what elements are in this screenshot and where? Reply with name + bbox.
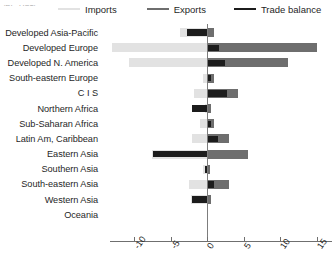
chart-figure: (Bln US$) Imports Exports Trade balance …	[0, 0, 332, 277]
bar-row: C I S	[0, 86, 332, 101]
bar-trade-balance	[207, 181, 214, 188]
chart-legend: Imports Exports Trade balance	[0, 2, 332, 16]
legend-label-exports: Exports	[174, 4, 206, 15]
bar-row: Oceania	[0, 207, 332, 222]
legend-item-trade-balance: Trade balance	[234, 4, 321, 15]
legend-item-imports: Imports	[58, 4, 117, 15]
bar-trade-balance	[207, 45, 219, 52]
bar-group	[0, 222, 332, 237]
bar-exports	[207, 28, 214, 37]
bar-row: South-eastern Asia	[0, 177, 332, 192]
legend-label-imports: Imports	[85, 4, 117, 15]
x-tick-label: 5	[242, 241, 253, 251]
bar-trade-balance	[153, 151, 207, 158]
bar-trade-balance	[192, 105, 207, 112]
plot-area: Developed Asia-PacificDeveloped EuropeDe…	[0, 24, 332, 246]
bar-row	[0, 222, 332, 237]
bar-row: Sub-Saharan Africa	[0, 116, 332, 131]
bar-imports	[112, 43, 207, 52]
bar-group	[0, 192, 332, 207]
bar-group	[0, 71, 332, 86]
bar-row: Developed Europe	[0, 40, 332, 55]
legend-label-trade-balance: Trade balance	[261, 4, 321, 15]
bar-row: South-eastern Europe	[0, 71, 332, 86]
bar-group	[0, 177, 332, 192]
bar-row: Latin Am, Caribbean	[0, 131, 332, 146]
bar-group	[0, 207, 332, 222]
bar-imports	[192, 134, 207, 143]
bar-group	[0, 40, 332, 55]
bar-imports	[200, 119, 207, 128]
bar-row: Northern Africa	[0, 101, 332, 116]
bar-group	[0, 86, 332, 101]
x-tick-label: 0	[205, 241, 216, 251]
bar-row: Developed Asia-Pacific	[0, 25, 332, 40]
bar-group	[0, 116, 332, 131]
bar-group	[0, 25, 332, 40]
bar-exports	[207, 150, 248, 159]
legend-swatch-exports	[147, 8, 169, 10]
bar-trade-balance	[192, 196, 207, 203]
bar-imports	[194, 89, 207, 98]
bar-row: Western Asia	[0, 192, 332, 207]
bar-exports	[207, 43, 317, 52]
bar-row: Developed N. America	[0, 55, 332, 70]
legend-swatch-imports	[58, 8, 80, 10]
legend-swatch-trade-balance	[234, 8, 256, 10]
bar-row: Eastern Asia	[0, 147, 332, 162]
bar-trade-balance	[207, 60, 225, 67]
legend-item-exports: Exports	[147, 4, 206, 15]
bar-group	[0, 162, 332, 177]
bar-rows: Developed Asia-PacificDeveloped EuropeDe…	[0, 25, 332, 238]
bar-group	[0, 55, 332, 70]
bar-trade-balance	[207, 90, 227, 97]
bar-imports	[189, 180, 207, 189]
zero-axis-line	[207, 24, 208, 241]
bar-group	[0, 131, 332, 146]
bar-group	[0, 101, 332, 116]
bar-row: Southern Asia	[0, 162, 332, 177]
bar-group	[0, 147, 332, 162]
bar-trade-balance	[187, 29, 207, 36]
bar-imports	[129, 58, 207, 67]
bar-trade-balance	[207, 136, 218, 143]
